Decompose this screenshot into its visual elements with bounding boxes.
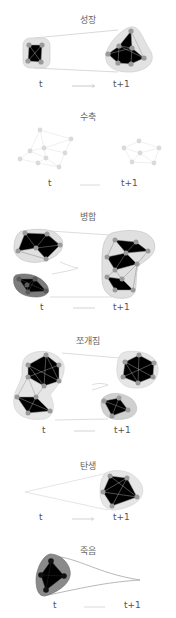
panel-birth: 탄생 t t+1 xyxy=(0,450,176,528)
panel-growth: 성장 t t+1 xyxy=(0,0,176,102)
label-t: t xyxy=(48,178,52,188)
panel-splitting: 쪼개짐 t t+1 xyxy=(0,325,176,450)
growth-diagram xyxy=(0,0,176,102)
label-t1: t+1 xyxy=(113,302,130,312)
label-t1: t+1 xyxy=(113,79,130,89)
label-t: t xyxy=(39,512,43,522)
merging-diagram xyxy=(0,200,176,325)
birth-diagram xyxy=(0,450,176,528)
label-t: t xyxy=(39,79,43,89)
label-t1: t+1 xyxy=(113,512,130,522)
label-t1: t+1 xyxy=(124,600,141,610)
label-t1: t+1 xyxy=(114,425,131,435)
label-t: t xyxy=(53,600,57,610)
panel-merging: 병합 t t+1 xyxy=(0,200,176,325)
label-t: t xyxy=(40,302,44,312)
death-diagram xyxy=(0,528,176,618)
splitting-diagram xyxy=(0,325,176,450)
label-t1: t+1 xyxy=(121,178,138,188)
contraction-diagram xyxy=(0,105,176,200)
panel-death: 죽음 t t+1 xyxy=(0,528,176,618)
label-t: t xyxy=(42,425,46,435)
panel-contraction: 수축 t t+1 xyxy=(0,105,176,200)
